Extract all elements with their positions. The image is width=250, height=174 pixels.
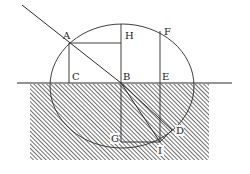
label-E: E	[162, 71, 169, 82]
label-C: C	[72, 71, 80, 82]
label-G: G	[111, 133, 119, 144]
label-B: B	[123, 71, 130, 82]
hatched-medium-region	[30, 84, 209, 160]
label-F: F	[164, 26, 171, 37]
refraction-diagram: A H F C B E G I D	[0, 0, 250, 174]
label-H: H	[125, 30, 134, 41]
label-A: A	[62, 30, 71, 41]
label-D: D	[176, 125, 184, 136]
label-I: I	[158, 145, 162, 156]
